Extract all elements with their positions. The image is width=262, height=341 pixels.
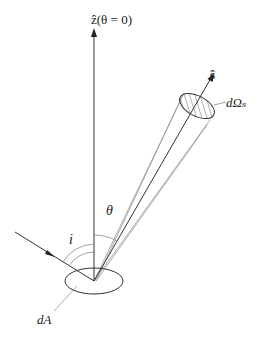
theta-label: θ (106, 204, 113, 218)
solid-angle-ellipse (176, 88, 219, 123)
diagram-canvas (0, 0, 262, 341)
incidence-arcs (63, 244, 94, 266)
solid-angle-leader (214, 102, 226, 105)
radiance-geometry-diagram: ẑ(θ = 0) ŝ dΩₛ θ i dA (0, 0, 262, 341)
incident-ray (15, 232, 94, 281)
incidence-angle-label: i (69, 233, 73, 247)
s-vector (94, 73, 214, 281)
area-element-label: dA (37, 313, 51, 326)
z-axis (91, 28, 97, 281)
solid-angle-label: dΩₛ (226, 96, 246, 109)
direction-label: ŝ (210, 68, 215, 81)
cone (94, 93, 210, 281)
area-leader (54, 286, 77, 311)
z-axis-label: ẑ(θ = 0) (91, 13, 132, 26)
